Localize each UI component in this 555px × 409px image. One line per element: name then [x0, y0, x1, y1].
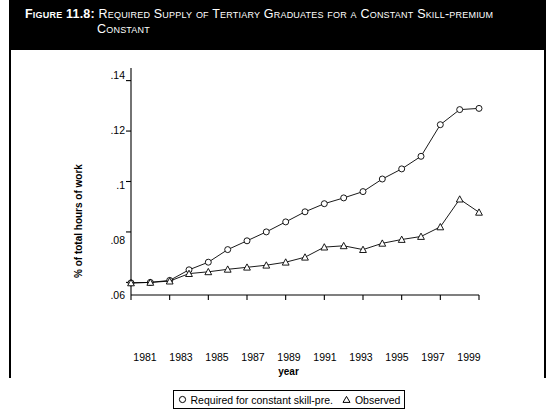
x-tick-label-1981: 1981 [127, 351, 163, 363]
legend-item-observed[interactable]: Observed [342, 394, 401, 406]
figure-label: Figure 11.8: [25, 7, 95, 21]
triangle-marker [418, 233, 425, 239]
figure-title-line-2: Constant [25, 22, 534, 37]
circle-marker [379, 176, 385, 182]
x-tick-label-1995: 1995 [379, 351, 415, 363]
circle-marker [225, 247, 231, 253]
x-axis-ticks [131, 295, 479, 300]
figure-title-band: Figure 11.8: Required Supply of Tertiary… [11, 2, 544, 50]
triangle-marker [437, 224, 444, 230]
plot-area: % of total hours of work .14 .12 .1 .08 … [11, 50, 544, 378]
circle-marker [457, 107, 463, 113]
x-tick-label-1985: 1985 [199, 351, 235, 363]
y-tick-label-0.12: .12 [95, 124, 125, 136]
circle-marker [205, 259, 211, 265]
x-tick-label-1987: 1987 [235, 351, 271, 363]
circle-marker [321, 201, 327, 207]
circle-marker [302, 209, 308, 215]
circle-marker [418, 153, 424, 159]
circle-marker [476, 105, 482, 111]
legend-label-required: Required for constant skill-pre. [191, 394, 333, 406]
figure-title-text-1: Required Supply of Tertiary Graduates fo… [99, 7, 494, 21]
axes-group [126, 68, 479, 300]
circle-marker [437, 122, 443, 128]
y-tick-label-0.1: .1 [95, 179, 125, 191]
x-tick-label-1999: 1999 [451, 351, 487, 363]
legend-item-required[interactable]: Required for constant skill-pre. [178, 394, 333, 406]
y-tick-label-0.06: .06 [95, 289, 125, 301]
circle-marker [341, 195, 347, 201]
x-tick-label-1991: 1991 [307, 351, 343, 363]
y-tick-label-0.08: .08 [95, 234, 125, 246]
figure-title-line-1: Figure 11.8: Required Supply of Tertiary… [25, 7, 534, 22]
circle-marker [244, 238, 250, 244]
triangle-marker [302, 254, 309, 260]
legend-label-observed: Observed [355, 394, 401, 406]
y-tick-label-0.14: .14 [95, 69, 125, 81]
circle-marker [283, 219, 289, 225]
figure-frame: Figure 11.8: Required Supply of Tertiary… [9, 0, 546, 378]
triangle-marker-icon [342, 395, 351, 404]
chart-canvas [11, 50, 548, 350]
x-tick-label-1997: 1997 [415, 351, 451, 363]
triangle-marker [476, 209, 483, 215]
chart-legend: Required for constant skill-pre. Observe… [173, 390, 405, 409]
x-axis-label: year [11, 366, 555, 377]
figure-title-text-2: Constant [97, 22, 150, 36]
circle-marker-icon [178, 395, 187, 404]
x-tick-label-1989: 1989 [271, 351, 307, 363]
circle-marker [360, 189, 366, 195]
y-axis-ticks [126, 81, 131, 283]
triangle-marker [456, 196, 463, 202]
circle-marker [263, 229, 269, 235]
circle-marker [399, 166, 405, 172]
data-series-group [128, 105, 483, 286]
x-tick-label-1993: 1993 [343, 351, 379, 363]
y-axis-label: % of total hours of work [73, 146, 89, 296]
x-tick-label-1983: 1983 [163, 351, 199, 363]
